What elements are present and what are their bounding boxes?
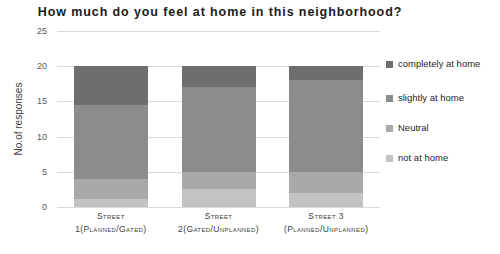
legend-item[interactable]: slightly at home [386, 92, 498, 105]
bar-segment[interactable] [289, 172, 363, 193]
y-axis-tick-label: 20 [37, 61, 47, 71]
legend-swatch-icon [386, 61, 393, 68]
legend-item[interactable]: Neutral [386, 122, 498, 135]
x-axis-category-line: (Planned/Unplanned) [261, 223, 391, 236]
bar-segment[interactable] [289, 193, 363, 207]
legend-swatch-icon [386, 155, 393, 162]
bar-segment[interactable] [289, 80, 363, 172]
gridline [57, 207, 380, 208]
bar-stack[interactable] [182, 66, 256, 207]
bar-segment[interactable] [182, 87, 256, 171]
bar-segment[interactable] [182, 172, 256, 190]
bar-segment[interactable] [182, 66, 256, 87]
y-axis-tick-label: 5 [42, 167, 47, 177]
x-axis-category-line: Street 3 [261, 210, 391, 223]
bar-stack[interactable] [289, 66, 363, 207]
legend-label: not at home [398, 152, 448, 165]
x-axis-category-label: Street 3(Planned/Unplanned) [261, 210, 391, 236]
legend-item[interactable]: not at home [386, 152, 498, 165]
legend-swatch-icon [386, 125, 393, 132]
y-axis-tick-label: 10 [37, 132, 47, 142]
x-axis-category-labels: Street1(Planned/Gated)Street2(Gated/Unpl… [57, 210, 380, 250]
legend-label: completely at home [398, 58, 480, 71]
y-axis-tick-label: 15 [37, 96, 47, 106]
bar-stack[interactable] [74, 66, 148, 207]
bar-segment[interactable] [74, 105, 148, 179]
legend-label: Neutral [398, 122, 429, 135]
y-axis-ticks: 0510152025 [0, 31, 51, 207]
bar-segment[interactable] [289, 66, 363, 80]
chart-title: How much do you feel at home in this nei… [0, 5, 440, 19]
plot-area [57, 31, 380, 207]
legend-swatch-icon [386, 95, 393, 102]
bar-segment[interactable] [74, 179, 148, 199]
legend-item[interactable]: completely at home [386, 58, 498, 71]
bar-segment[interactable] [74, 66, 148, 105]
bar-segment[interactable] [74, 199, 148, 207]
legend-label: slightly at home [398, 92, 464, 105]
gridline [57, 31, 380, 32]
y-axis-tick-label: 25 [37, 26, 47, 36]
chart-container: How much do you feel at home in this nei… [0, 0, 500, 254]
bar-segment[interactable] [182, 189, 256, 207]
